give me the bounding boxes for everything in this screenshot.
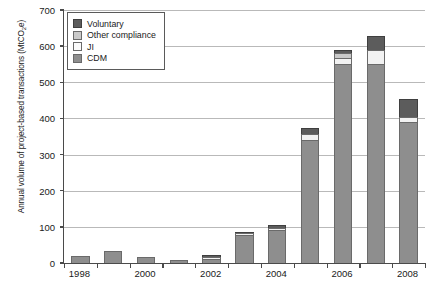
bar-group-2006 xyxy=(327,10,360,263)
bar-segment-cdm xyxy=(202,259,220,263)
bar-segment-cdm xyxy=(399,122,417,263)
stacked-bar xyxy=(202,255,220,263)
x-axis-tick-label: 2006 xyxy=(331,268,352,279)
stacked-bar xyxy=(301,128,319,263)
y-axis-tick-label: 100 xyxy=(21,221,55,232)
x-axis-tick-labels: 199820002002200420062008 xyxy=(63,268,424,284)
y-axis-tick-label: 0 xyxy=(21,258,55,269)
y-axis-tick-label: 600 xyxy=(21,41,55,52)
bar-segment-cdm xyxy=(170,260,188,263)
x-axis-tick-mark xyxy=(425,263,426,268)
legend-item-other-compliance: Other compliance xyxy=(73,30,156,40)
legend-swatch-ji-icon xyxy=(73,42,82,51)
stacked-bar xyxy=(367,36,385,263)
bar-segment-vol xyxy=(367,36,385,50)
stacked-bar xyxy=(235,232,253,263)
bar-segment-cdm xyxy=(268,230,286,263)
bar-segment-cdm xyxy=(334,64,352,264)
chart-container: Annual volume of project-based transacti… xyxy=(0,0,437,300)
x-axis-tick-label: 2004 xyxy=(266,268,287,279)
bar-segment-ji xyxy=(367,50,385,63)
y-axis-tick-label: 700 xyxy=(21,5,55,16)
legend-swatch-voluntary-icon xyxy=(73,19,82,28)
bar-group-2008 xyxy=(392,10,425,263)
bar-group-2007 xyxy=(359,10,392,263)
legend-label-ji: JI xyxy=(87,42,94,52)
bar-segment-vol xyxy=(399,99,417,117)
legend-label-cdm: CDM xyxy=(87,53,107,63)
legend-label-other-compliance: Other compliance xyxy=(87,30,156,40)
bar-group-2003 xyxy=(228,10,261,263)
stacked-bar xyxy=(170,260,188,263)
bar-segment-cdm xyxy=(137,257,155,263)
stacked-bar xyxy=(71,256,89,263)
bar-segment-cdm xyxy=(301,140,319,263)
legend-item-voluntary: Voluntary xyxy=(73,19,156,29)
stacked-bar xyxy=(334,50,352,263)
legend-swatch-other-compliance-icon xyxy=(73,31,82,40)
bar-segment-cdm xyxy=(367,64,385,264)
bar-segment-cdm xyxy=(104,251,122,263)
y-axis-title-subscript: 2 xyxy=(20,27,26,30)
bar-group-2002 xyxy=(195,10,228,263)
legend-item-cdm: CDM xyxy=(73,53,156,63)
bar-group-2004 xyxy=(261,10,294,263)
bar-group-2001 xyxy=(162,10,195,263)
bar-group-2005 xyxy=(294,10,327,263)
y-axis-tick-label: 300 xyxy=(21,149,55,160)
bar-segment-cdm xyxy=(235,235,253,263)
x-axis-tick-label: 2000 xyxy=(134,268,155,279)
x-axis-tick-label: 2002 xyxy=(200,268,221,279)
legend-item-ji: JI xyxy=(73,42,156,52)
stacked-bar xyxy=(104,251,122,263)
y-axis-tick-label: 200 xyxy=(21,185,55,196)
stacked-bar xyxy=(399,99,417,263)
stacked-bar xyxy=(137,257,155,263)
bar-segment-cdm xyxy=(71,256,89,263)
x-axis-tick-label: 1998 xyxy=(69,268,90,279)
stacked-bar xyxy=(268,225,286,263)
y-axis-tick-label: 400 xyxy=(21,113,55,124)
x-axis-tick-label: 2008 xyxy=(397,268,418,279)
legend-label-voluntary: Voluntary xyxy=(87,19,124,29)
y-axis-tick-label: 500 xyxy=(21,77,55,88)
legend-swatch-cdm-icon xyxy=(73,54,82,63)
chart-legend: Voluntary Other compliance JI CDM xyxy=(67,12,165,70)
